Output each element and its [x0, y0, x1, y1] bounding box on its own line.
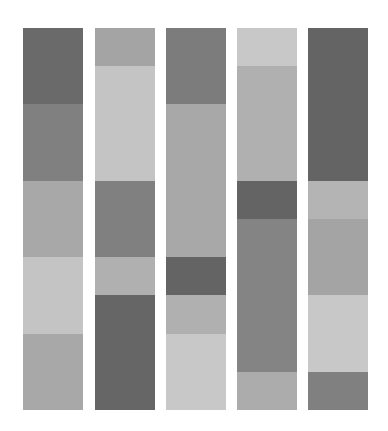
chart-segment — [237, 372, 297, 410]
chart-segment — [166, 295, 226, 334]
chart-segment — [237, 219, 297, 372]
chart-column — [166, 28, 226, 410]
chart-segment — [23, 334, 83, 410]
chart-segment — [166, 104, 226, 257]
chart-column — [23, 28, 83, 410]
chart-segment — [308, 372, 368, 410]
chart-segment — [237, 28, 297, 66]
chart-column — [95, 28, 155, 410]
chart-segment — [95, 257, 155, 295]
chart-segment — [166, 28, 226, 104]
chart-segment — [23, 104, 83, 181]
chart-segment — [95, 66, 155, 181]
chart-segment — [95, 28, 155, 66]
chart-segment — [308, 28, 368, 181]
chart-segment — [166, 257, 226, 295]
chart-column — [308, 28, 368, 410]
chart-segment — [308, 295, 368, 372]
chart-segment — [237, 66, 297, 181]
chart-segment — [308, 219, 368, 295]
chart-column — [237, 28, 297, 410]
stacked-column-chart — [0, 0, 388, 431]
chart-segment — [23, 181, 83, 257]
chart-segment — [308, 181, 368, 219]
chart-segment — [166, 334, 226, 410]
chart-segment — [23, 28, 83, 104]
chart-segment — [237, 181, 297, 219]
chart-segment — [95, 181, 155, 257]
chart-segment — [95, 295, 155, 410]
chart-segment — [23, 257, 83, 334]
